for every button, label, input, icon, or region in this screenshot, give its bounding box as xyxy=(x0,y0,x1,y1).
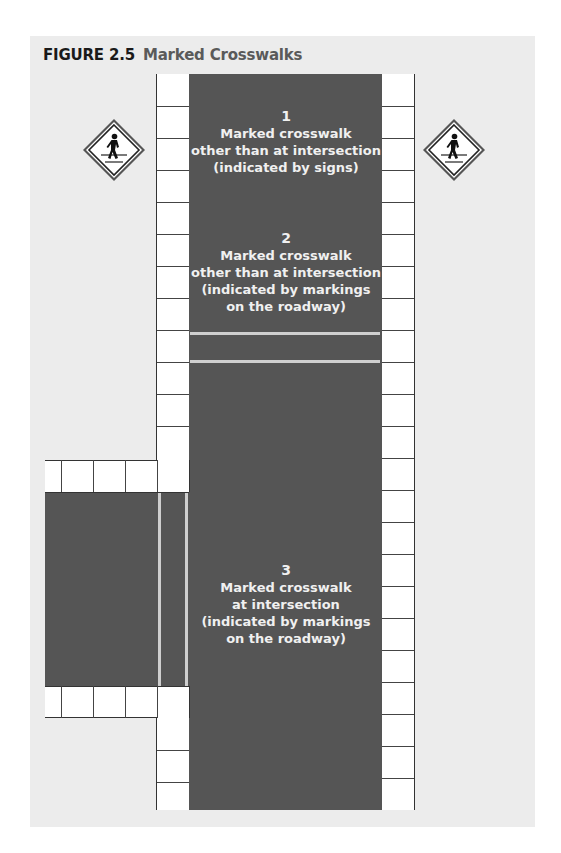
crosswalk-3-stripe-left xyxy=(158,493,161,686)
curb-edge xyxy=(45,492,189,493)
cross-street xyxy=(45,492,189,686)
crosswalk-1-label: 1 Marked crosswalk other than at interse… xyxy=(190,108,382,176)
crosswalk-1-number: 1 xyxy=(190,108,382,125)
main-road xyxy=(189,74,382,810)
sidewalk-edge xyxy=(156,718,157,810)
label-line: (indicated by signs) xyxy=(190,159,382,176)
label-line: (indicated by markings xyxy=(190,613,382,630)
label-line: other than at intersection xyxy=(190,264,382,281)
sidewalk-edge xyxy=(156,74,157,461)
label-line: (indicated by markings xyxy=(190,281,382,298)
crosswalk-2-stripe-top xyxy=(190,332,380,335)
curb-edge xyxy=(189,460,190,492)
sidewalk-edge xyxy=(414,74,415,810)
cross-street-top-sidewalk xyxy=(45,460,189,492)
right-sidewalk xyxy=(382,74,414,810)
crosswalk-2-number: 2 xyxy=(190,230,382,247)
curb-edge xyxy=(45,686,189,687)
crosswalk-2-stripe-bottom xyxy=(190,360,380,363)
label-line: Marked crosswalk xyxy=(190,125,382,142)
label-line: on the roadway) xyxy=(190,298,382,315)
figure-number: FIGURE 2.5 xyxy=(43,46,135,64)
label-line: at intersection xyxy=(190,596,382,613)
crosswalk-3-stripe-right xyxy=(185,493,188,686)
cross-street-bottom-sidewalk xyxy=(45,686,189,718)
left-sidewalk-upper xyxy=(157,74,189,460)
label-line: on the roadway) xyxy=(190,630,382,647)
label-line: Marked crosswalk xyxy=(190,579,382,596)
figure-title: Marked Crosswalks xyxy=(143,46,302,64)
figure-caption: FIGURE 2.5Marked Crosswalks xyxy=(43,46,302,64)
crosswalk-3-label: 3 Marked crosswalk at intersection (indi… xyxy=(190,562,382,647)
label-line: Marked crosswalk xyxy=(190,247,382,264)
crosswalk-2-label: 2 Marked crosswalk other than at interse… xyxy=(190,230,382,315)
left-sidewalk-lower xyxy=(157,718,189,810)
pedestrian-crossing-sign-icon xyxy=(421,117,487,183)
label-line: other than at intersection xyxy=(190,142,382,159)
crosswalk-3-number: 3 xyxy=(190,562,382,579)
curb-edge xyxy=(189,686,190,718)
pedestrian-crossing-sign-icon xyxy=(81,117,147,183)
